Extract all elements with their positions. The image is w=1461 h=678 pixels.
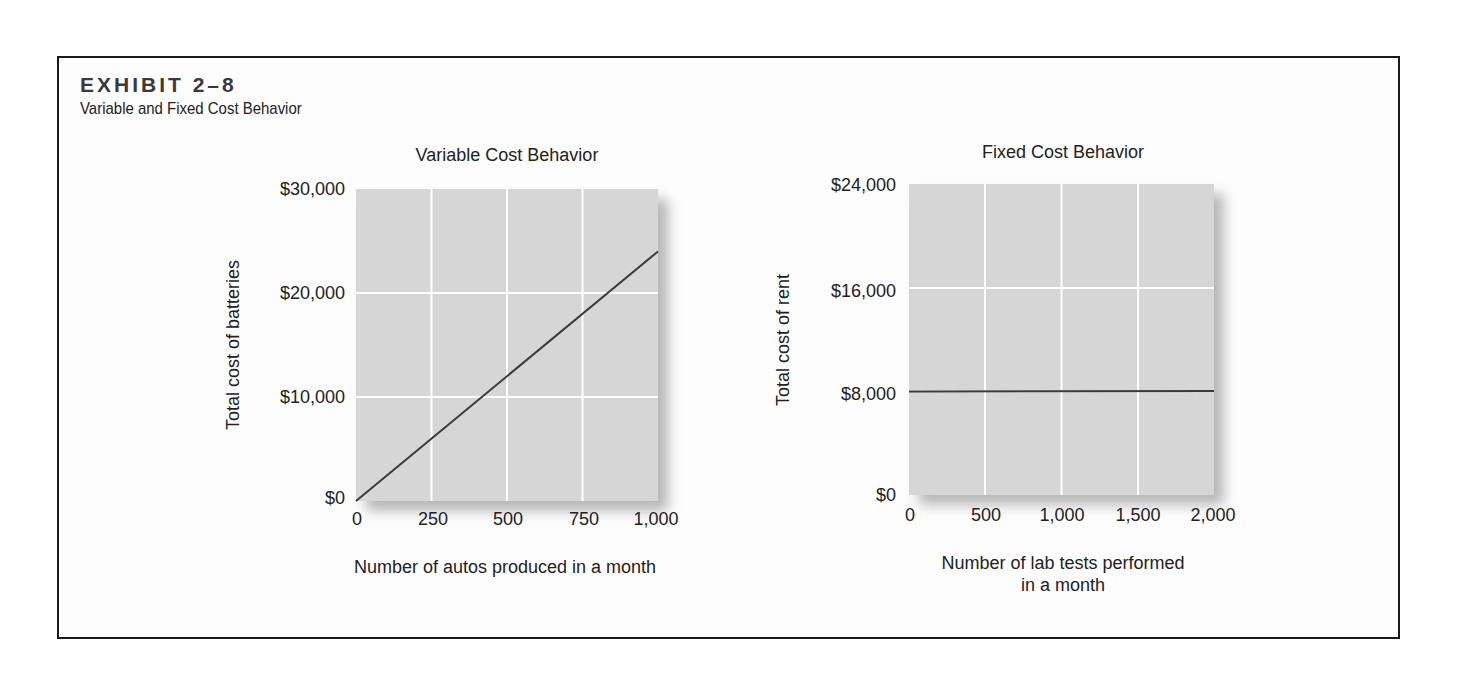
x-tick: 500 [946,505,1026,526]
x-tick: 0 [317,509,397,530]
exhibit-title: Variable and Fixed Cost Behavior [80,99,302,119]
fixed-cost-line [909,391,1214,392]
x-tick: 250 [393,509,473,530]
x-axis-label: Number of lab tests performed in a month [941,552,1184,596]
x-axis-label-line1: Number of lab tests performed [941,552,1184,574]
x-tick: 1,500 [1098,505,1178,526]
x-tick: 0 [870,505,950,526]
y-tick: $10,000 [235,387,345,408]
plot-area [356,189,658,501]
x-tick: 750 [544,509,624,530]
x-axis-label: Number of autos produced in a month [354,556,656,578]
y-tick: $20,000 [235,283,345,304]
exhibit-label: EXHIBIT 2–8 [80,73,237,97]
chart-title: Variable Cost Behavior [416,145,599,166]
y-axis-label: Total cost of rent [773,274,794,406]
y-tick: $16,000 [786,281,896,302]
y-tick: $8,000 [786,384,896,405]
y-tick: $0 [235,488,345,509]
x-axis-label-line2: in a month [941,574,1184,596]
y-tick: $24,000 [786,175,896,196]
x-tick: 1,000 [616,509,696,530]
x-tick: 2,000 [1173,505,1253,526]
x-tick: 1,000 [1022,505,1102,526]
y-tick: $0 [786,485,896,506]
plot-area [909,184,1214,495]
chart-title: Fixed Cost Behavior [982,142,1144,163]
x-tick: 500 [468,509,548,530]
y-axis-label: Total cost of batteries [223,260,244,430]
plot-svg [909,184,1214,495]
plot-svg [356,189,658,501]
y-tick: $30,000 [235,179,345,200]
